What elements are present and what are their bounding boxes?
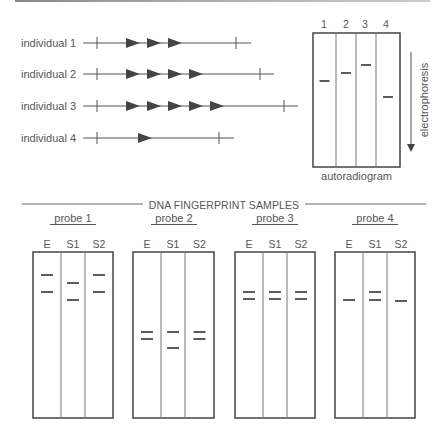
repeat-arrow-icon: [147, 101, 161, 111]
section-title: DNA FINGERPRINT SAMPLES: [0, 199, 448, 211]
repeat-arrow-icon: [189, 69, 203, 79]
section-title-text: DNA FINGERPRINT SAMPLES: [143, 199, 305, 211]
repeat-arrow-icon: [126, 69, 140, 79]
lane-2-label: 2: [338, 18, 354, 30]
probe-gel: [335, 252, 415, 418]
repeat-arrow-icon: [168, 69, 182, 79]
repeat-arrow-icon: [168, 101, 182, 111]
repeat-arrow-icon: [189, 101, 203, 111]
column-label-s1: S1: [364, 238, 386, 250]
probe-4-label: probe 4: [335, 212, 415, 224]
repeat-arrow-icon: [210, 101, 224, 111]
probe-gel: [235, 252, 315, 418]
probe-2-label: probe 2: [134, 212, 214, 224]
repeat-arrow-icon: [147, 38, 161, 48]
probe-1-label: probe 1: [33, 212, 113, 224]
probe-gel: [133, 252, 214, 418]
probe-4-text: probe 4: [352, 212, 397, 225]
autoradiogram-label: autoradiogram: [313, 170, 400, 182]
column-label-s1: S1: [62, 238, 84, 250]
repeat-arrow-icon: [147, 69, 161, 79]
column-label-e: E: [338, 238, 360, 250]
probe-1-text: probe 1: [50, 212, 95, 225]
probe-3-text: probe 3: [252, 212, 297, 225]
probe-gel: [33, 252, 113, 418]
probe-3-label: probe 3: [235, 212, 315, 224]
electrophoresis-label: electrophoresis: [418, 63, 430, 138]
probe-2-text: probe 2: [151, 212, 196, 225]
column-label-s1: S1: [264, 238, 286, 250]
repeat-arrow-icon: [126, 101, 140, 111]
column-label-s2: S2: [390, 238, 412, 250]
column-label-s1: S1: [162, 238, 184, 250]
lane-4-label: 4: [378, 18, 394, 30]
lane-3-label: 3: [357, 18, 373, 30]
repeat-arrow-icon: [126, 38, 140, 48]
lane-1-label: 1: [316, 18, 332, 30]
column-label-s2: S2: [88, 238, 110, 250]
repeat-arrow-icon: [138, 133, 152, 143]
repeat-arrow-icon: [168, 38, 182, 48]
column-label-e: E: [136, 238, 158, 250]
column-label-e: E: [238, 238, 260, 250]
column-label-s2: S2: [189, 238, 211, 250]
arrow-head-icon: [407, 144, 415, 152]
column-label-s2: S2: [290, 238, 312, 250]
column-label-e: E: [36, 238, 58, 250]
